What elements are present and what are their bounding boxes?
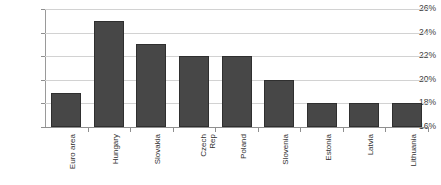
bar: [392, 103, 422, 127]
bar: [349, 103, 379, 127]
bar: [264, 80, 294, 127]
x-axis-tick-mark: [215, 128, 216, 132]
plot-area: [45, 9, 428, 127]
x-axis-line: [45, 127, 429, 128]
x-axis-category-label-line: Poland: [240, 134, 249, 184]
x-axis-tick-mark: [385, 128, 386, 132]
x-axis-category-label: Slovakia: [154, 134, 204, 184]
x-axis-tick-mark: [173, 128, 174, 132]
x-axis-category-label: Lithuania: [410, 134, 441, 184]
x-axis-category-label-line: Hungary: [112, 134, 121, 184]
x-axis-category-label-line: Slovenia: [282, 134, 291, 184]
bar: [51, 93, 81, 127]
x-axis-tick-mark: [130, 128, 131, 132]
x-axis-category-label-line: Lithuania: [410, 134, 419, 184]
x-axis-tick-mark: [428, 128, 429, 132]
x-axis-category-label-line: Euro area: [69, 134, 78, 184]
x-axis-category-label-line: Latvia: [367, 134, 376, 184]
bar: [136, 44, 166, 127]
bar: [179, 56, 209, 127]
x-axis-category-label-line: Estonia: [325, 134, 334, 184]
bar: [307, 103, 337, 127]
x-axis-tick-mark: [343, 128, 344, 132]
x-axis-tick-mark: [300, 128, 301, 132]
x-axis-tick-mark: [88, 128, 89, 132]
x-axis-category-label-line: Slovakia: [154, 134, 163, 184]
bar: [94, 21, 124, 127]
x-axis-tick-mark: [258, 128, 259, 132]
bar: [222, 56, 252, 127]
gridline: [45, 9, 428, 10]
x-axis-category-label-line: Rep: [208, 134, 217, 184]
